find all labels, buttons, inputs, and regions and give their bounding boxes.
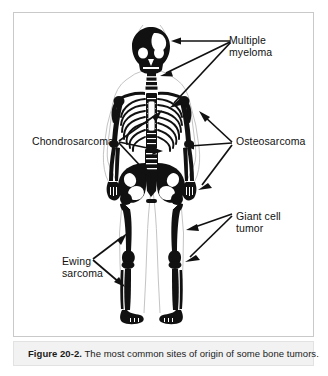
figure-caption-number: Figure 20-2. (28, 348, 82, 359)
figure-caption-bar: Figure 20-2. The most common sites of or… (13, 341, 314, 366)
figure-container: Multiple myeloma Chondrosarcoma Osteosar… (0, 0, 328, 376)
cervical-spine (146, 73, 158, 90)
label-chondrosarcoma: Chondrosarcoma (32, 136, 114, 148)
label-osteosarcoma: Osteosarcoma (236, 136, 305, 148)
right-leg-bones (159, 203, 183, 324)
arrow-group-giant-cell-tumor (185, 214, 232, 262)
figure-image-frame: Multiple myeloma Chondrosarcoma Osteosar… (13, 12, 314, 337)
figure-caption-body: The most common sites of origin of some … (82, 348, 319, 359)
left-leg-bones (120, 203, 144, 324)
label-multiple-myeloma: Multiple myeloma (229, 35, 272, 58)
figure-caption: Figure 20-2. The most common sites of or… (28, 348, 319, 359)
label-ewing-sarcoma: Ewing sarcoma (62, 256, 103, 279)
label-giant-cell-tumor: Giant cell tumor (236, 211, 281, 234)
arrow-group-multiple-myeloma (160, 38, 230, 109)
skull-bone (132, 27, 170, 74)
skeleton-illustration (14, 13, 313, 336)
